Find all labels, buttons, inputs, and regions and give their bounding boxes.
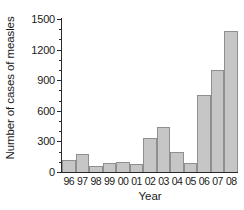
measles-cases-bar-chart: Number of cases of measles 0300600900120… [0,0,244,210]
bar-slot [143,19,157,172]
y-axis-title: Number of cases of measles [2,2,18,174]
bar [103,163,117,172]
bar-slot [170,19,184,172]
x-axis-tick-label: 03 [157,175,171,187]
y-axis-tick-label: 1500 [31,14,55,25]
x-axis-tick-label: 99 [103,175,117,187]
x-axis-tick-label: 00 [116,175,130,187]
bar [170,152,184,172]
bar-slot [76,19,90,172]
bar [143,138,157,172]
bar-slot [116,19,130,172]
bar-slot [130,19,144,172]
bar-series [62,19,238,172]
y-axis-tick-label: 600 [37,105,55,116]
bar-slot [103,19,117,172]
bar [116,162,130,172]
bar [197,95,211,172]
x-axis-tick-label: 96 [62,175,76,187]
y-axis-tick-label: 0 [49,167,55,178]
y-axis-tick-label: 900 [37,75,55,86]
y-axis-tick-label: 300 [37,136,55,147]
x-axis-tick-label: 02 [143,175,157,187]
bar-slot [62,19,76,172]
bar [184,163,198,172]
x-axis-tick-label: 06 [197,175,211,187]
x-axis-tick-label: 01 [130,175,144,187]
bar-slot [224,19,238,172]
x-axis-tick-label: 07 [211,175,225,187]
bar [76,154,90,172]
y-axis-tick-label: 1200 [31,44,55,55]
x-axis-tick-label: 05 [184,175,198,187]
bar [224,31,238,172]
bar-slot [89,19,103,172]
bar-slot [197,19,211,172]
x-axis-line [61,172,238,173]
bar-slot [184,19,198,172]
bar-slot [211,19,225,172]
bar [157,127,171,172]
bar [89,166,103,172]
x-axis-tick-label: 97 [76,175,90,187]
x-axis-title: Year [62,190,238,202]
bar-slot [157,19,171,172]
y-axis-major-tick [57,172,62,173]
x-axis-tick-label: 08 [224,175,238,187]
x-axis-tick-label: 98 [89,175,103,187]
bar [62,160,76,172]
plot-area: 030060090012001500 [62,19,238,172]
bar [130,164,144,172]
x-axis-tick-label: 04 [170,175,184,187]
bar [211,70,225,172]
x-axis-tick-labels: 96979899000102030405060708 [62,175,238,187]
